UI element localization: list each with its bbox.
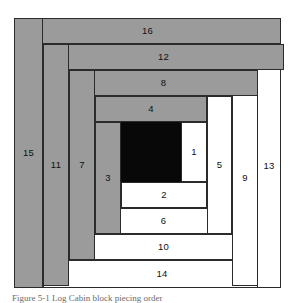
- strip-label-8: 8: [161, 78, 166, 88]
- strip-label-2: 2: [161, 190, 166, 200]
- quilt-strip-12: 12: [43, 44, 284, 70]
- quilt-strip-15: 15: [14, 18, 43, 288]
- quilt-strip-5: 5: [207, 96, 232, 234]
- strip-label-9: 9: [242, 173, 247, 183]
- quilt-strip-7: 7: [69, 70, 95, 260]
- quilt-strip-4: 4: [95, 96, 207, 122]
- figure-caption: Figure 5-1 Log Cabin block piecing order: [12, 293, 294, 303]
- strip-label-1: 1: [191, 147, 196, 157]
- quilt-strip-3: 3: [95, 122, 121, 234]
- strip-label-11: 11: [51, 160, 61, 170]
- strip-label-6: 6: [161, 216, 166, 226]
- log-cabin-block: 16151413121110987654321: [14, 11, 281, 288]
- strip-label-10: 10: [158, 242, 169, 252]
- strip-label-14: 14: [157, 269, 168, 279]
- strip-label-12: 12: [158, 52, 169, 62]
- quilt-strip-9: 9: [232, 70, 258, 286]
- strip-label-3: 3: [105, 173, 110, 183]
- quilt-strip-2: 2: [121, 182, 207, 208]
- strip-label-5: 5: [217, 160, 222, 170]
- strip-label-13: 13: [264, 161, 275, 171]
- quilt-strip-1: 1: [181, 122, 207, 182]
- quilt-strip-10: 10: [69, 234, 258, 260]
- figure-container: 16151413121110987654321 Figure 5-1 Log C…: [0, 0, 294, 303]
- strip-label-16: 16: [142, 26, 153, 36]
- quilt-strip-11: 11: [43, 44, 69, 286]
- strip-label-7: 7: [79, 160, 84, 170]
- quilt-center-square: [121, 122, 181, 182]
- strip-label-15: 15: [23, 148, 34, 158]
- strip-label-4: 4: [148, 104, 153, 114]
- quilt-strip-13: 13: [257, 44, 281, 288]
- quilt-strip-16: 16: [14, 18, 281, 44]
- quilt-strip-8: 8: [69, 70, 258, 96]
